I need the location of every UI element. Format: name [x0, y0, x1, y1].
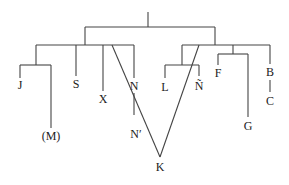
- node-n-tilde: Ñ: [195, 79, 204, 93]
- node-m: (M): [42, 129, 61, 143]
- tree-diagram: J (M) S X N N′ K L Ñ F G B C: [0, 0, 289, 185]
- node-l: L: [161, 80, 168, 94]
- node-g: G: [244, 119, 253, 133]
- node-n: N: [130, 79, 139, 93]
- node-j: J: [18, 78, 23, 92]
- node-n-prime: N′: [130, 127, 142, 141]
- node-k: K: [156, 160, 165, 174]
- node-f: F: [215, 66, 222, 80]
- node-s: S: [73, 77, 80, 91]
- node-c: C: [266, 94, 274, 108]
- node-x: X: [99, 92, 108, 106]
- node-b: B: [266, 65, 274, 79]
- right-diagonal-to-k: [160, 45, 199, 157]
